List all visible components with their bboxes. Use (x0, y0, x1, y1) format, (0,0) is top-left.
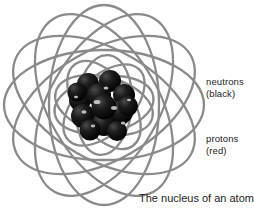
highlight-6 (104, 87, 109, 90)
highlight-2 (111, 106, 117, 110)
atom-diagram-figure: neutrons (black) protons (red) The nucle… (0, 0, 254, 212)
label-neutrons: neutrons (black) (206, 76, 244, 99)
highlight-8 (74, 96, 78, 99)
nucleon-front-5 (68, 83, 87, 102)
label-protons-color: (red) (206, 145, 238, 157)
highlight-3 (81, 110, 86, 113)
highlight-1 (94, 100, 101, 104)
figure-caption: The nucleus of an atom. (139, 192, 254, 205)
label-neutrons-color: (black) (206, 88, 244, 100)
label-protons-name: protons (206, 133, 238, 145)
highlight-7 (127, 99, 131, 102)
nucleon-group (68, 70, 139, 141)
highlight-4 (121, 122, 125, 125)
highlight-5 (91, 125, 95, 128)
nucleus-cluster (0, 0, 254, 212)
nucleon-front-2 (80, 120, 101, 141)
label-neutrons-name: neutrons (206, 76, 244, 88)
label-protons: protons (red) (206, 133, 238, 156)
